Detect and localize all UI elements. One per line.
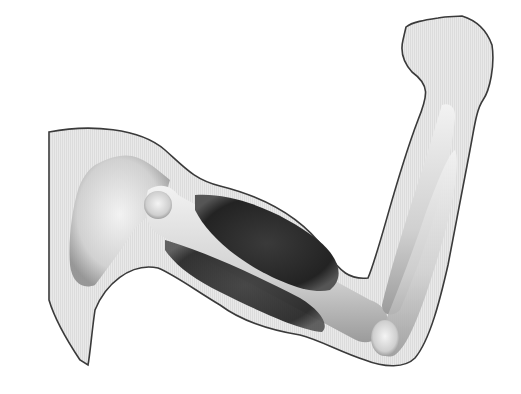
elbow-joint — [371, 320, 399, 356]
humerus-head — [144, 191, 172, 219]
arm-anatomy-illustration — [0, 0, 521, 394]
